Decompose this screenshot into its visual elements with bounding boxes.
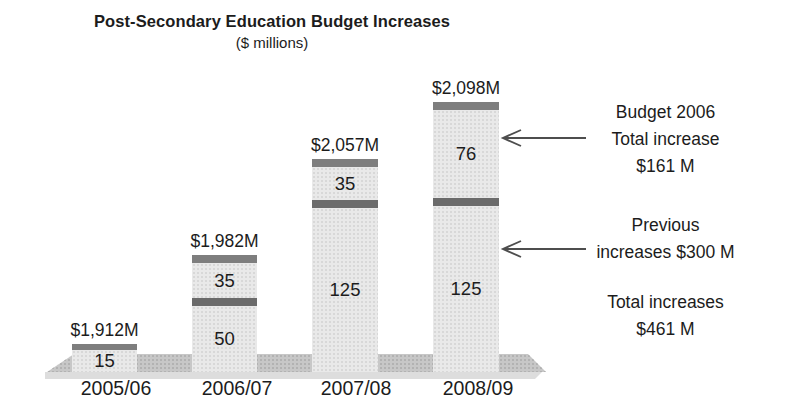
bar-total-label: $2,098M <box>432 78 500 98</box>
segment-value-label: 35 <box>214 270 235 292</box>
bar-segment: 125 <box>312 208 378 372</box>
bar-segment: 35 <box>312 167 378 200</box>
annotation-line: Previous <box>563 212 768 239</box>
annotation-total-increases: Total increases $461 M <box>563 289 768 343</box>
bar-segment: 76 <box>433 110 499 198</box>
segment-value-label: 15 <box>94 350 115 372</box>
annotation-line: Budget 2006 <box>563 99 768 126</box>
bar-cap-stripe <box>433 102 499 110</box>
annotation-previous-increases: Previous increases $300 M <box>563 212 768 266</box>
segment-value-label: 35 <box>335 173 356 195</box>
annotation-line: Total increases <box>563 289 768 316</box>
bar-segment: 35 <box>192 263 257 298</box>
bar-divider-stripe <box>433 198 499 206</box>
bar-segment: 125 <box>433 206 499 372</box>
bar-segment: 15 <box>72 350 137 372</box>
bar-2008-09: $2,098M 76 125 <box>433 78 499 372</box>
bar-2005-06: $1,912M 15 <box>72 320 137 372</box>
bar-segment: 50 <box>192 306 257 372</box>
chart-header: Post-Secondary Education Budget Increase… <box>52 11 492 52</box>
axis-label-2005-06: 2005/06 <box>56 377 176 399</box>
bar-2006-07: $1,982M 35 50 <box>192 231 257 372</box>
axis-label-2006-07: 2006/07 <box>177 377 297 399</box>
annotation-line: increases $300 M <box>563 239 768 266</box>
segment-value-label: 125 <box>451 278 482 300</box>
segment-value-label: 50 <box>214 328 235 350</box>
axis-label-2007-08: 2007/08 <box>296 377 416 399</box>
segment-value-label: 125 <box>330 279 361 301</box>
annotation-line: Total increase <box>563 126 768 153</box>
bar-divider-stripe <box>312 200 378 208</box>
bar-total-label: $2,057M <box>311 135 379 155</box>
bar-2007-08: $2,057M 35 125 <box>312 135 378 372</box>
annotation-line: $161 M <box>563 153 768 180</box>
bar-cap-stripe <box>192 255 257 263</box>
bar-total-label: $1,982M <box>190 231 258 251</box>
annotation-budget-2006: Budget 2006 Total increase $161 M <box>563 99 768 180</box>
bar-total-label: $1,912M <box>70 320 138 340</box>
bar-cap-stripe <box>312 159 378 167</box>
axis-label-2008-09: 2008/09 <box>418 377 538 399</box>
bar-divider-stripe <box>192 298 257 306</box>
budget-chart: Post-Secondary Education Budget Increase… <box>0 0 791 410</box>
segment-value-label: 76 <box>456 143 477 165</box>
chart-title: Post-Secondary Education Budget Increase… <box>52 11 492 32</box>
chart-subtitle: ($ millions) <box>52 33 492 52</box>
annotation-line: $461 M <box>563 316 768 343</box>
